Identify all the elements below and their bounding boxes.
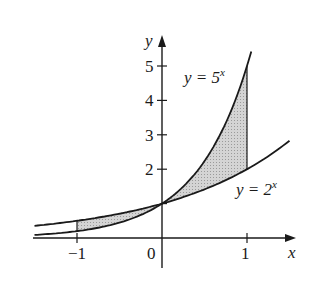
exponential-area-chart: y x −1 0 1 2 3 4 5 y = 5x y = 2x [0,0,320,286]
labels: y x −1 0 1 2 3 4 5 y = 5x y = 2x [68,31,296,263]
x-tick-label-1: 1 [241,244,250,263]
y-tick-label-5: 5 [145,57,154,76]
y-axis-arrow-icon [158,35,166,47]
axes [33,35,296,268]
curve-label-5x: y = 5x [182,66,225,87]
y-tick-label-3: 3 [145,126,154,145]
x-tick-label-0: 0 [147,244,156,263]
x-axis-arrow-icon [285,234,296,242]
x-axis-label: x [287,243,296,262]
y-tick-label-4: 4 [145,91,154,110]
y-axis-label: y [143,31,153,50]
y-tick-label-2: 2 [145,160,154,179]
x-tick-label-neg1: −1 [68,244,86,263]
curve-label-2x: y = 2x [234,178,277,199]
